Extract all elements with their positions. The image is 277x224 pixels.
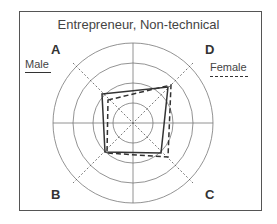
radar-chart [0,0,277,224]
